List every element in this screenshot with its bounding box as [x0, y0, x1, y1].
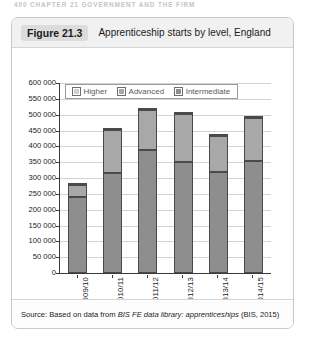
bar-group	[68, 83, 87, 273]
bar-group	[209, 83, 228, 273]
bar-segment-higher	[209, 134, 228, 136]
bar-segment-higher	[68, 183, 87, 185]
legend-label: Advanced	[129, 87, 165, 96]
legend-swatch-advanced	[118, 88, 125, 95]
bar-segment-higher	[103, 128, 122, 130]
bar-segment-intermediate	[68, 197, 87, 273]
legend-label: Higher	[84, 87, 108, 96]
chart-axes	[59, 83, 271, 274]
bar-segment-advanced	[174, 114, 193, 162]
legend-item-higher: Higher	[73, 87, 107, 96]
figure-title: Apprenticeship starts by level, England	[98, 27, 270, 38]
y-tick-label: 150 000	[29, 222, 56, 230]
y-tick-label: 600 000	[29, 79, 56, 87]
y-tick-label: 400 000	[29, 142, 56, 150]
bar-segment-higher	[174, 112, 193, 115]
legend-swatch-higher	[73, 88, 80, 95]
x-tick-mark	[217, 275, 218, 278]
bar-segment-intermediate	[209, 172, 228, 273]
chart-legend: HigherAdvancedIntermediate	[65, 84, 238, 99]
figure-number: Figure 21.3	[21, 25, 88, 41]
y-tick-label: 100 000	[29, 237, 56, 245]
y-tick-label: 550 000	[29, 95, 56, 103]
bar-series	[60, 83, 271, 273]
y-tick-label: 350 000	[29, 158, 56, 166]
bar-segment-advanced	[138, 110, 157, 150]
y-tick-label: 250 000	[29, 190, 56, 198]
source-note: Source: Based on data from BIS FE data l…	[21, 310, 279, 319]
x-tick-mark	[252, 275, 253, 278]
running-page-header: 400 CHAPTER 21 GOVERNMENT AND THE FIRM	[14, 1, 294, 10]
bar-segment-advanced	[244, 118, 263, 160]
legend-swatch-intermediate	[175, 88, 182, 95]
figure-card: Figure 21.3 Apprenticeship starts by lev…	[11, 17, 294, 329]
plot-area: 600 000550 000500 000450 000400 000350 0…	[12, 48, 294, 300]
x-tick-mark	[147, 275, 148, 278]
source-bar: Source: Based on data from BIS FE data l…	[12, 299, 293, 328]
legend-item-advanced: Advanced	[118, 87, 164, 96]
bar-segment-intermediate	[138, 150, 157, 274]
legend-item-intermediate: Intermediate	[175, 87, 230, 96]
bar-segment-advanced	[209, 136, 228, 172]
legend-label: Intermediate	[186, 87, 230, 96]
bar-group	[103, 83, 122, 273]
x-tick-mark	[77, 275, 78, 278]
bar-segment-advanced	[103, 130, 122, 174]
bar-group	[244, 83, 263, 273]
bar-segment-intermediate	[244, 161, 263, 273]
bar-group	[174, 83, 193, 273]
bar-segment-higher	[244, 116, 263, 118]
bar-segment-higher	[138, 108, 157, 110]
y-tick-label: 300 000	[29, 174, 56, 182]
bar-segment-intermediate	[103, 173, 122, 273]
x-tick-mark	[182, 275, 183, 278]
bar-segment-advanced	[68, 185, 87, 197]
y-tick-mark	[56, 273, 60, 274]
source-italic-title: BIS FE data library: apprenticeships	[118, 310, 239, 319]
y-axis-labels: 600 000550 000500 000450 000400 000350 0…	[12, 83, 56, 273]
bar-segment-intermediate	[174, 162, 193, 273]
x-tick-mark	[112, 275, 113, 278]
figure-caption-bar: Figure 21.3 Apprenticeship starts by lev…	[12, 18, 293, 48]
bar-group	[138, 83, 157, 273]
y-tick-label: 450 000	[29, 127, 56, 135]
y-tick-label: 200 000	[29, 206, 56, 214]
y-tick-label: 500 000	[29, 111, 56, 119]
y-tick-label: 50 000	[33, 253, 56, 261]
figure-page: 400 CHAPTER 21 GOVERNMENT AND THE FIRM F…	[0, 0, 309, 339]
